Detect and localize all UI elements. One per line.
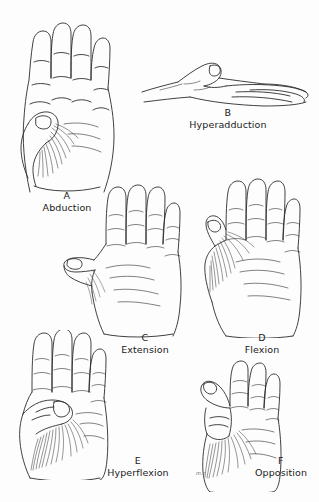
panel-name-e: Hyperflexion	[78, 468, 198, 478]
caption-f: F Opposition	[236, 456, 319, 478]
panel-letter-f: F	[236, 456, 319, 466]
artist-signature: m.c	[196, 470, 206, 476]
hand-palm-icon-a	[8, 6, 126, 196]
panel-name-f: Opposition	[236, 468, 319, 478]
panel-d: D Flexion	[188, 178, 310, 338]
panel-letter-b: B	[158, 108, 298, 118]
panel-letter-e: E	[78, 456, 198, 466]
hand-palm-icon-c	[62, 178, 188, 338]
panel-name-b: Hyperadduction	[158, 120, 298, 130]
panel-e: E Hyperflexion	[14, 330, 144, 480]
panel-a: A Abduction	[8, 6, 126, 196]
hand-lateral-icon-b	[140, 40, 316, 110]
caption-b: B Hyperadduction	[158, 108, 298, 130]
figure-thumb-movements: A Abduction	[0, 0, 319, 502]
hand-palm-icon-d	[188, 178, 310, 338]
panel-b: B Hyperadduction	[140, 40, 316, 110]
panel-f: m.c F Opposition	[184, 352, 314, 492]
panel-c: C Extension	[62, 178, 188, 338]
panel-letter-d: D	[212, 333, 312, 343]
caption-e: E Hyperflexion	[78, 456, 198, 478]
